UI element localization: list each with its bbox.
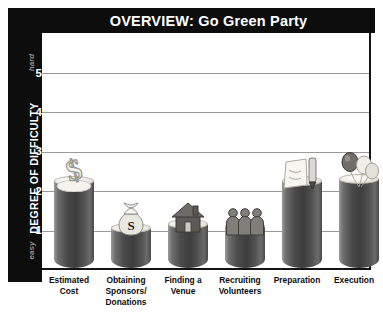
y-tick-1: 1: [12, 224, 42, 236]
y-tick-3: 3: [12, 145, 42, 157]
y-axis-panel: DEGREE OF DIFFICULTY hard 5 4 3 2 1 easy: [8, 8, 42, 282]
bar-obtaining-sponsors[interactable]: S: [111, 228, 151, 268]
bar-execution[interactable]: [339, 179, 379, 268]
bar-group: $ S: [42, 33, 369, 268]
bar-recruiting-volunteers[interactable]: [225, 226, 265, 268]
bar-estimated-cost[interactable]: $: [54, 181, 94, 268]
y-tick-2: 2: [12, 185, 42, 197]
page-title: OVERVIEW: Go Green Party: [42, 8, 375, 33]
money-bag-icon: S: [111, 202, 151, 238]
y-tick-5: 5: [12, 67, 42, 79]
clipboard-pen-icon: [280, 154, 324, 192]
y-axis-bottom-label: easy: [27, 240, 36, 262]
balloons-icon: [337, 150, 381, 190]
volunteers-group-icon: [225, 206, 265, 236]
dollar-sign-icon: $: [54, 152, 94, 192]
bar-preparation[interactable]: [282, 181, 322, 268]
cat-line-3: Donations: [93, 297, 159, 308]
cat-line-2: Volunteers: [207, 286, 273, 297]
category-label-execution: Execution: [321, 275, 383, 286]
money-bag-letter: S: [127, 218, 134, 233]
chart-container: DEGREE OF DIFFICULTY hard 5 4 3 2 1 easy…: [0, 0, 383, 317]
plot-area: $ S: [42, 33, 371, 270]
house-icon: [168, 200, 208, 234]
cat-line-1: Execution: [321, 275, 383, 286]
y-tick-4: 4: [12, 106, 42, 118]
bar-finding-venue[interactable]: [168, 224, 208, 268]
